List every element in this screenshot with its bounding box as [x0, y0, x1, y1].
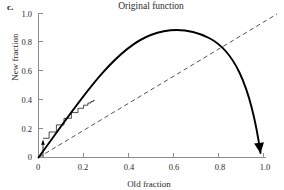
plot-canvas	[0, 0, 284, 190]
identity-line	[39, 14, 278, 158]
x-axis-ticks	[39, 153, 264, 158]
y-axis-ticks	[39, 13, 44, 158]
original-function-parabola	[39, 30, 261, 157]
cobweb-trajectory	[43, 101, 95, 139]
figure-panel: c. Original function New fraction Old fr…	[0, 0, 284, 190]
